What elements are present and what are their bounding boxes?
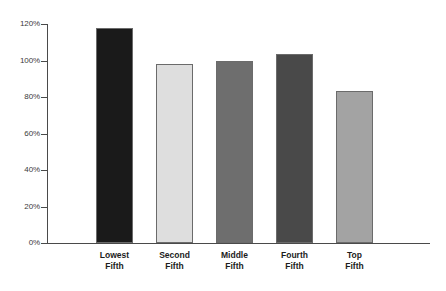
y-axis-tick-label: 100% [6, 57, 40, 65]
category-label-line: Lowest [85, 250, 145, 261]
bar [156, 64, 193, 243]
y-axis-tick-label: 80% [6, 93, 40, 101]
category-label-line: Fifth [145, 261, 205, 272]
bar [276, 54, 313, 243]
bar-chart: 0%20%40%60%80%100%120% LowestFifthSecond… [0, 0, 446, 291]
x-axis-category-label: FourthFifth [265, 250, 325, 271]
y-axis-tick-label: 40% [6, 166, 40, 174]
x-axis-category-label: MiddleFifth [205, 250, 265, 271]
category-label-line: Fifth [205, 261, 265, 272]
category-label-line: Second [145, 250, 205, 261]
category-label-line: Fifth [85, 261, 145, 272]
y-axis-tick-label: 60% [6, 130, 40, 138]
y-axis-tick-label: 120% [6, 20, 40, 28]
y-axis-tick-label: 0% [6, 239, 40, 247]
category-label-line: Top [325, 250, 385, 261]
y-axis-tick-labels: 0%20%40%60%80%100%120% [0, 0, 40, 291]
x-axis-line [47, 243, 430, 244]
y-axis-tick-label: 20% [6, 203, 40, 211]
category-label-line: Fourth [265, 250, 325, 261]
x-axis-category-label: LowestFifth [85, 250, 145, 271]
y-axis-tick [41, 170, 48, 171]
bar [96, 28, 133, 243]
x-axis-category-label: TopFifth [325, 250, 385, 271]
y-axis-tick [41, 243, 48, 244]
y-axis-tick [41, 97, 48, 98]
y-axis-tick [41, 61, 48, 62]
category-label-line: Fifth [325, 261, 385, 272]
category-label-line: Middle [205, 250, 265, 261]
y-axis-tick [41, 207, 48, 208]
plot-area [48, 24, 430, 243]
bar [216, 61, 253, 243]
category-label-line: Fifth [265, 261, 325, 272]
y-axis-tick [41, 134, 48, 135]
bar [336, 91, 373, 243]
y-axis-tick [41, 24, 48, 25]
x-axis-category-label: SecondFifth [145, 250, 205, 271]
